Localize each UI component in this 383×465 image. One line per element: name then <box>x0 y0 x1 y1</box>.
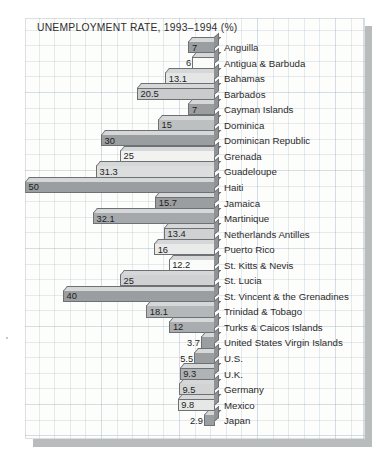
category-label: U.K. <box>224 367 243 383</box>
bar[interactable]: 9.8 <box>178 399 215 411</box>
bar-row: 12Turks & Caicos Islands <box>25 320 365 336</box>
bar-side-face <box>214 188 219 205</box>
bar-value-label: 50 <box>29 181 39 193</box>
bar-chart-plot: 7Anguilla6Antigua & Barbuda13.1Bahamas20… <box>25 40 365 436</box>
bar[interactable]: 18.1 <box>146 305 215 317</box>
category-label: Cayman Islands <box>224 102 293 118</box>
category-label: Dominica <box>224 118 264 134</box>
bar-side-face <box>214 250 219 267</box>
bar-side-face <box>214 95 219 112</box>
category-label: Mexico <box>224 398 255 414</box>
category-label: Barbados <box>224 87 265 103</box>
bar[interactable]: 6 <box>192 57 215 69</box>
category-label: Bahamas <box>224 71 265 87</box>
bar[interactable]: 25 <box>120 274 215 286</box>
bar[interactable]: 31.3 <box>96 165 215 177</box>
bar-top-face <box>101 130 221 135</box>
category-label: Martinique <box>224 211 269 227</box>
category-label: Grenada <box>224 149 262 165</box>
bar-value-label: 9.8 <box>181 399 194 411</box>
category-label: Japan <box>224 413 250 429</box>
bar-side-face <box>214 297 219 314</box>
bar-value-label: 40 <box>67 290 77 302</box>
bar-side-face <box>214 328 219 345</box>
category-label: U.S. <box>224 351 243 367</box>
bar-side-face <box>214 141 219 158</box>
category-label: Trinidad & Tobago <box>224 304 302 320</box>
bar[interactable]: 13.4 <box>164 228 215 240</box>
category-label: Haiti <box>224 180 243 196</box>
category-label: Jamaica <box>224 196 260 212</box>
category-label: Netherlands Antilles <box>224 227 310 243</box>
bar-value-label: 12 <box>173 321 183 333</box>
bar-side-face <box>214 48 219 65</box>
bar[interactable]: 30 <box>101 134 215 146</box>
bar-side-face <box>214 79 219 96</box>
bar-row: 9.8Mexico <box>25 398 365 414</box>
bar-top-face <box>120 270 221 275</box>
bar[interactable]: 2.9 <box>204 414 215 426</box>
category-label: St. Lucia <box>224 273 262 289</box>
bar-top-face <box>63 286 221 291</box>
category-label: Puerto Rico <box>224 242 275 258</box>
bar-side-face <box>214 390 219 407</box>
chart-title: UNEMPLOYMENT RATE, 1993–1994 (%) <box>37 22 237 33</box>
bar-side-face <box>214 157 219 174</box>
bar-side-face <box>214 266 219 283</box>
bar-side-face <box>214 281 219 298</box>
bar-top-face <box>120 146 221 151</box>
bar-side-face <box>214 172 219 189</box>
bar-row: 3.7United States Virgin Islands <box>25 335 365 351</box>
category-label: Antigua & Barbuda <box>224 56 305 72</box>
category-label: Anguilla <box>224 40 258 56</box>
category-label: Turks & Caicos Islands <box>224 320 323 336</box>
bar[interactable]: 15.7 <box>155 197 215 209</box>
bar[interactable]: 7 <box>188 103 215 115</box>
category-label: St. Vincent & the Grenadines <box>224 289 349 305</box>
bar-side-face <box>214 219 219 236</box>
scan-speck <box>6 337 8 339</box>
bar-value-label: 30 <box>105 135 115 147</box>
bar-side-face <box>214 359 219 376</box>
bar-top-face <box>25 177 221 182</box>
bar-value-label: 20.5 <box>141 88 159 100</box>
bar-side-face <box>214 235 219 252</box>
bar-row: 2.9Japan <box>25 413 365 429</box>
bar-value-label: 18.1 <box>150 306 168 318</box>
bar-side-face <box>214 110 219 127</box>
bar-side-face <box>214 312 219 329</box>
category-label: Dominican Republic <box>224 133 310 149</box>
bar[interactable]: 3.7 <box>201 336 215 348</box>
bar-value-label: 2.9 <box>190 415 203 427</box>
bar-value-label: 16 <box>158 244 168 256</box>
panel-bottom-shadow <box>33 439 372 447</box>
category-label: United States Virgin Islands <box>224 335 343 351</box>
bar[interactable]: 16 <box>154 243 215 255</box>
bar[interactable]: 9.3 <box>180 368 215 380</box>
category-label: St. Kitts & Nevis <box>224 258 293 274</box>
chart-panel: UNEMPLOYMENT RATE, 1993–1994 (%) 7Anguil… <box>25 18 365 439</box>
category-label: Germany <box>224 382 264 398</box>
category-label: Guadeloupe <box>224 164 277 180</box>
bar-side-face <box>214 126 219 143</box>
bar-value-label: 32.1 <box>97 213 115 225</box>
bar-side-face <box>214 406 219 423</box>
bar[interactable]: 20.5 <box>137 88 215 100</box>
